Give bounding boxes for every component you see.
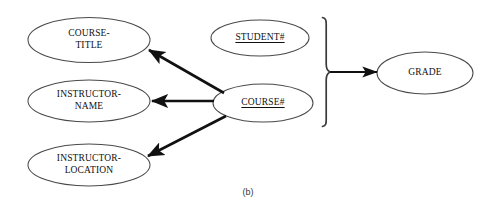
ellipse-course-number[interactable]: [213, 84, 313, 122]
figure-caption: (b): [218, 187, 278, 197]
ellipse-instructor-name[interactable]: [28, 80, 150, 122]
composite-key-brace: [323, 18, 331, 127]
diagram-svg: [0, 0, 497, 214]
figure-canvas: COURSE- TITLE INSTRUCTOR- NAME INSTRUCTO…: [0, 0, 497, 214]
ellipse-student-number[interactable]: [211, 20, 309, 56]
arrow-course-number-to-course-title: [149, 50, 224, 93]
ellipse-course-title[interactable]: [28, 18, 150, 63]
ellipse-instructor-location[interactable]: [28, 144, 150, 186]
ellipse-grade[interactable]: [377, 52, 473, 94]
arrow-course-number-to-instructor-location: [148, 116, 226, 156]
